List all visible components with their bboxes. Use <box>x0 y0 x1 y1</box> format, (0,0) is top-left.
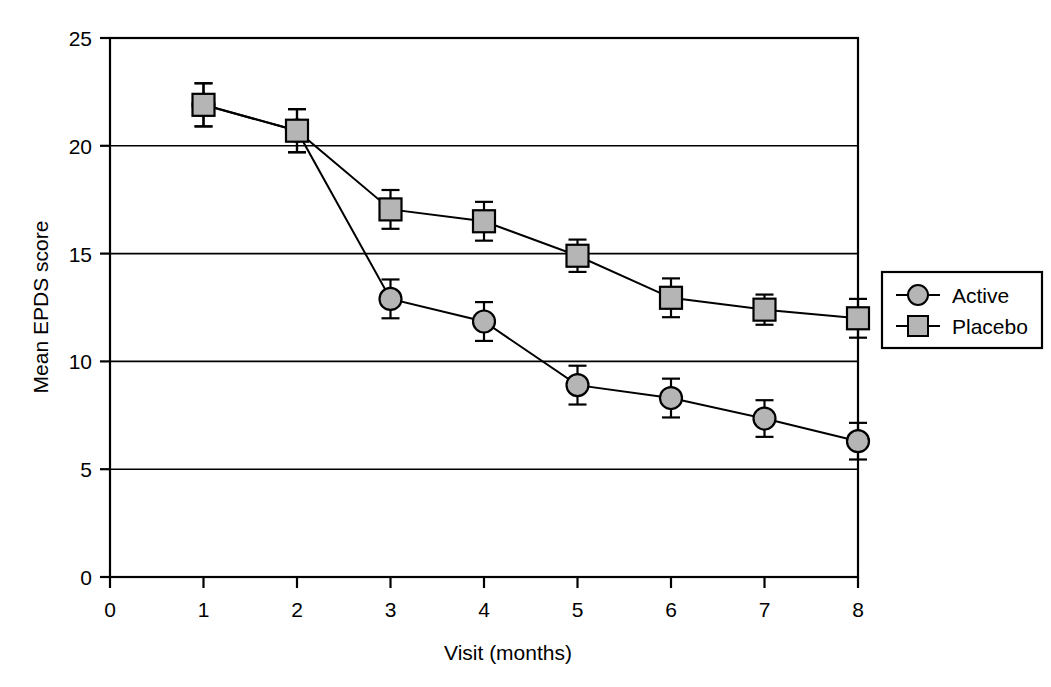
x-tick-label: 1 <box>198 598 210 621</box>
y-tick-label: 15 <box>69 243 92 266</box>
x-tick-label: 5 <box>572 598 584 621</box>
legend-label-placebo: Placebo <box>952 315 1028 338</box>
legend-entry-active[interactable]: Active <box>896 284 1009 307</box>
data-point-square[interactable] <box>660 287 682 309</box>
data-point-square[interactable] <box>286 120 308 142</box>
y-tick-label: 10 <box>69 350 92 373</box>
legend-label-active: Active <box>952 284 1009 307</box>
data-point-circle[interactable] <box>847 430 869 452</box>
x-tick-label: 8 <box>852 598 864 621</box>
x-axis-title: Visit (months) <box>444 641 572 664</box>
data-point-square[interactable] <box>567 245 589 267</box>
y-tick-label: 25 <box>69 27 92 50</box>
data-point-circle[interactable] <box>660 387 682 409</box>
data-point-square[interactable] <box>754 299 776 321</box>
data-point-square[interactable] <box>380 198 402 220</box>
x-tick-label: 0 <box>104 598 116 621</box>
data-point-square[interactable] <box>847 307 869 329</box>
data-point-circle[interactable] <box>567 374 589 396</box>
chart-figure: 25 20 15 10 5 0 0 1 2 3 4 5 6 <box>0 0 1051 687</box>
x-tick-label: 4 <box>478 598 490 621</box>
data-point-square[interactable] <box>473 210 495 232</box>
data-point-circle[interactable] <box>473 311 495 333</box>
y-tick-label: 20 <box>69 135 92 158</box>
circle-marker-icon <box>908 285 928 305</box>
data-point-circle[interactable] <box>754 408 776 430</box>
legend-entry-placebo[interactable]: Placebo <box>896 315 1028 338</box>
y-axis-title: Mean EPDS score <box>29 221 52 394</box>
y-tick-label: 5 <box>80 458 92 481</box>
x-tick-label: 3 <box>385 598 397 621</box>
x-tick-label: 6 <box>665 598 677 621</box>
x-tick-label: 7 <box>759 598 771 621</box>
legend: Active Placebo <box>882 272 1042 348</box>
square-marker-icon <box>908 316 928 336</box>
data-point-square[interactable] <box>193 94 215 116</box>
data-point-circle[interactable] <box>380 288 402 310</box>
x-tick-label: 2 <box>291 598 303 621</box>
epds-line-chart: 25 20 15 10 5 0 0 1 2 3 4 5 6 <box>0 0 1051 687</box>
y-tick-label: 0 <box>80 566 92 589</box>
